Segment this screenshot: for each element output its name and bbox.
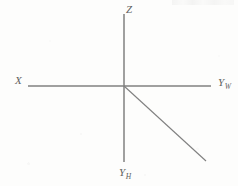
- axis-lines-group: [28, 14, 211, 162]
- axis-label-y-world-subscript: W: [225, 82, 231, 91]
- axis-label-x: X: [15, 75, 22, 86]
- axis-label-x-text: X: [15, 74, 22, 86]
- axis-label-y-height: YH: [119, 167, 131, 178]
- coordinate-axes-figure: Z X YW YH: [0, 0, 238, 186]
- axis-label-y-world-text: Y: [218, 76, 224, 88]
- axis-label-y-world: YW: [218, 77, 231, 88]
- axis-label-z-text: Z: [126, 3, 132, 15]
- axis-label-y-height-subscript: H: [126, 172, 131, 181]
- axis-label-y-height-text: Y: [119, 166, 125, 178]
- axes-line-art: [0, 0, 238, 186]
- axis-label-z: Z: [126, 4, 132, 15]
- axis-line-diagonal: [124, 86, 206, 161]
